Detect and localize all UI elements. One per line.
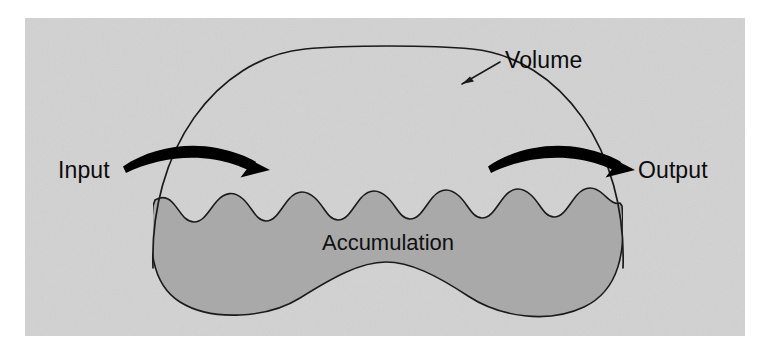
diagram-canvas: Volume Input Output Accumulation [0,0,770,354]
output-label: Output [638,157,708,183]
figure-panel [25,18,745,336]
input-label: Input [58,157,110,183]
accumulation-label: Accumulation [322,230,454,255]
volume-label: Volume [505,47,582,73]
volume-accumulation-diagram: Volume Input Output Accumulation [0,0,770,354]
